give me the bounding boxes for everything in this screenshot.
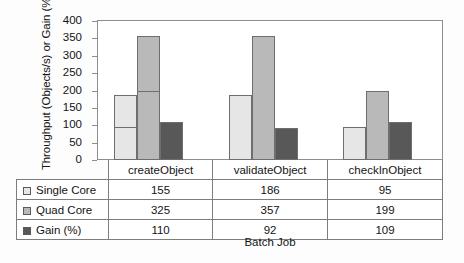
bar: [366, 91, 389, 160]
legend-entry: Quad Core: [17, 200, 109, 220]
y-axis-tick-label: 250: [63, 66, 82, 78]
category-header-cell: validateObject: [213, 160, 328, 180]
table-value-cell: 199: [328, 200, 443, 220]
bar: [137, 91, 160, 160]
y-axis-tick-label: 100: [63, 118, 82, 130]
legend-swatch-icon: [23, 227, 31, 235]
data-table: createObjectvalidateObjectcheckInObjectS…: [16, 160, 443, 240]
table-value-cell: 325: [109, 200, 213, 220]
legend-entry: Single Core: [17, 180, 109, 200]
y-axis-tick-label: 150: [63, 101, 82, 113]
table-value-cell: 357: [213, 200, 328, 220]
bar: [252, 36, 275, 160]
legend-label: Quad Core: [36, 204, 92, 216]
bar: [343, 127, 366, 160]
data-table-body: createObjectvalidateObjectcheckInObjectS…: [17, 160, 443, 240]
y-axis-tick-label: 200: [63, 84, 82, 96]
legend-swatch-icon: [23, 207, 31, 215]
bar: [160, 122, 183, 160]
y-axis-ticks: 050100150200250300350400: [0, 0, 97, 180]
bar-chart-figure: Throughput (Objects/s) or Gain (%) 05010…: [0, 0, 464, 263]
bar-group: [327, 21, 442, 160]
y-axis-tick-label: 50: [69, 136, 82, 148]
table-row: Quad Core325357199: [17, 200, 443, 220]
y-axis-tick-label: 350: [63, 31, 82, 43]
table-value-cell: 155: [109, 180, 213, 200]
table-corner-cell: [17, 160, 109, 180]
bar-group: [213, 21, 328, 160]
table-row: createObjectvalidateObjectcheckInObject: [17, 160, 443, 180]
bar: [229, 95, 252, 160]
bar: [114, 127, 137, 160]
table-row: Single Core15518695: [17, 180, 443, 200]
category-header-cell: createObject: [109, 160, 213, 180]
legend-label: Gain (%): [36, 224, 81, 236]
bar: [389, 122, 412, 160]
legend-swatch-icon: [23, 187, 31, 195]
y-axis-tick-label: 400: [63, 14, 82, 26]
legend-label: Single Core: [36, 184, 96, 196]
legend-entry: Gain (%): [17, 220, 109, 240]
y-axis-tick-label: 300: [63, 49, 82, 61]
table-value-cell: 95: [328, 180, 443, 200]
table-value-cell: 186: [213, 180, 328, 200]
bar: [275, 128, 298, 160]
bars-layer: [98, 21, 442, 160]
x-axis-title: Batch Job: [97, 236, 443, 248]
category-header-cell: checkInObject: [328, 160, 443, 180]
